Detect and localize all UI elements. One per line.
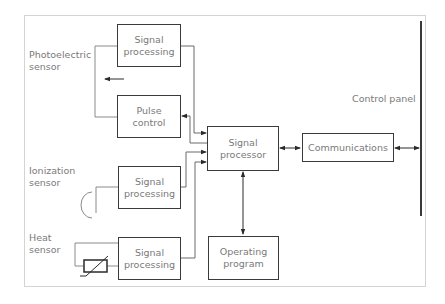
signal-processing-block-heat: Signal processing bbox=[118, 237, 181, 280]
signal-processor-block: Signal processor bbox=[207, 126, 279, 171]
communications-block: Communications bbox=[302, 133, 394, 162]
signal-processing-block-photoelectric: Signal processing bbox=[117, 24, 181, 67]
pulse-control-block: Pulse control bbox=[117, 95, 181, 138]
heat-sensor-label: Heat sensor bbox=[29, 232, 60, 256]
control-panel-bar bbox=[420, 21, 422, 216]
control-panel-label: Control panel bbox=[352, 93, 416, 105]
photoelectric-sensor-label: Photoelectric sensor bbox=[29, 49, 91, 73]
operating-program-block: Operating program bbox=[208, 236, 279, 280]
ionization-sensor-label: Ionization sensor bbox=[29, 165, 75, 189]
signal-processing-block-ionization: Signal processing bbox=[118, 166, 181, 209]
